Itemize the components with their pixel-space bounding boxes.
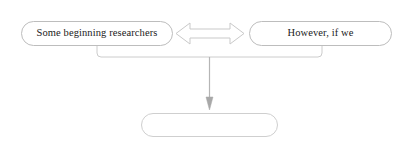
however-if-we-node-shape[interactable] bbox=[250, 22, 392, 46]
merge-bracket-connector-shape bbox=[97, 46, 322, 57]
double-headed-arrow-shape bbox=[176, 23, 244, 44]
some-beginning-researchers-node-shape[interactable] bbox=[22, 22, 173, 46]
downward-arrow-head bbox=[206, 97, 213, 110]
empty-result-node-shape[interactable] bbox=[142, 114, 278, 137]
diagram-canvas: Some beginning researchers However, if w… bbox=[0, 0, 409, 151]
diagram-graphics bbox=[0, 0, 409, 151]
